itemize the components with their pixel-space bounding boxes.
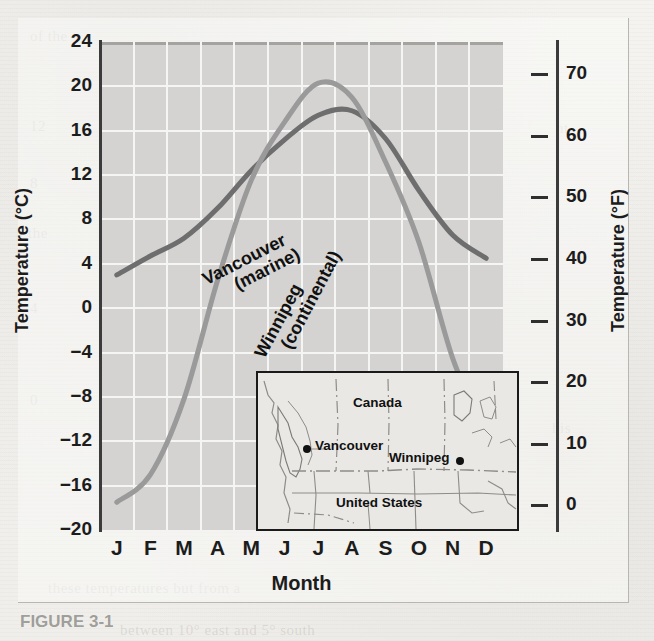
x-tick-label: J xyxy=(305,536,331,560)
y-axis-right-line xyxy=(556,40,559,532)
x-tick-label: S xyxy=(372,536,398,560)
map-label-winnipeg: Winnipeg xyxy=(389,450,450,465)
y-tick-label-c: 12 xyxy=(46,163,92,185)
inset-map: Vancouver Winnipeg Canada United States xyxy=(256,371,519,531)
x-tick-label: J xyxy=(104,536,130,560)
x-tick-label: N xyxy=(440,536,466,560)
y-axis-left-labels: 24201612840−4−8−12−16−20 xyxy=(42,0,92,641)
y-tick-label-f: 30 xyxy=(566,309,606,331)
y-tick-mark-f xyxy=(531,196,548,199)
x-tick-label: M xyxy=(238,536,264,560)
y-tick-mark-f xyxy=(531,381,548,384)
x-tick-label: J xyxy=(272,536,298,560)
y-tick-label-c: 20 xyxy=(46,74,92,96)
y-tick-label-f: 40 xyxy=(566,247,606,269)
x-tick-label: A xyxy=(205,536,231,560)
y-axis-left-line xyxy=(99,40,102,532)
x-tick-label: F xyxy=(137,536,163,560)
map-dot-winnipeg xyxy=(456,457,464,465)
y-tick-label-c: −16 xyxy=(46,474,92,496)
map-label-vancouver: Vancouver xyxy=(315,438,383,453)
y-tick-label-c: 16 xyxy=(46,119,92,141)
y-tick-label-f: 20 xyxy=(566,370,606,392)
x-axis-labels: JFMAMJJASOND xyxy=(100,536,503,566)
y-axis-right-title: Temperature (°F) xyxy=(608,121,629,401)
y-tick-label-c: 4 xyxy=(46,252,92,274)
y-tick-mark-f xyxy=(531,443,548,446)
x-tick-label: A xyxy=(339,536,365,560)
y-tick-label-c: −12 xyxy=(46,429,92,451)
figure-caption: FIGURE 3-1 xyxy=(20,612,114,632)
x-tick-label: O xyxy=(406,536,432,560)
y-tick-label-f: 0 xyxy=(566,493,606,515)
curve-vancouver xyxy=(117,109,486,275)
y-tick-label-c: −4 xyxy=(46,341,92,363)
map-label-canada: Canada xyxy=(353,395,402,410)
y-tick-label-c: 24 xyxy=(46,30,92,52)
y-tick-mark-f xyxy=(531,320,548,323)
y-tick-label-f: 60 xyxy=(566,124,606,146)
y-tick-mark-f xyxy=(531,258,548,261)
x-axis-title: Month xyxy=(100,572,503,595)
y-tick-label-c: −8 xyxy=(46,385,92,407)
y-tick-mark-f xyxy=(531,504,548,507)
y-axis-left-title: Temperature (°C) xyxy=(12,121,33,401)
y-tick-label-c: 0 xyxy=(46,296,92,318)
y-tick-mark-f xyxy=(531,135,548,138)
map-label-united-states: United States xyxy=(336,495,422,510)
y-tick-mark-f xyxy=(531,73,548,76)
y-tick-label-f: 10 xyxy=(566,432,606,454)
y-tick-label-c: −20 xyxy=(46,518,92,540)
figure-container: Vancouver (marine) Winnipeg (continental… xyxy=(0,0,654,641)
map-dot-vancouver xyxy=(303,445,311,453)
x-tick-label: D xyxy=(473,536,499,560)
y-tick-label-c: 8 xyxy=(46,207,92,229)
x-tick-label: M xyxy=(171,536,197,560)
y-tick-label-f: 50 xyxy=(566,185,606,207)
y-tick-label-f: 70 xyxy=(566,62,606,84)
